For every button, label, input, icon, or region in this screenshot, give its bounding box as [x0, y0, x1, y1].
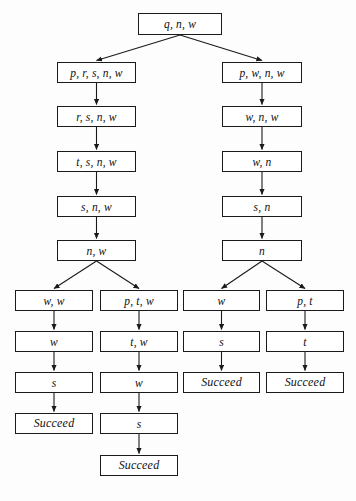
- tree-node-label: t, w: [130, 336, 147, 348]
- tree-node-label: s: [137, 418, 142, 430]
- tree-node-r4: s, n: [222, 196, 302, 217]
- tree-node-label: Succeed: [285, 375, 326, 390]
- tree-edge-r5-to-c4a: [262, 261, 305, 289]
- tree-node-root: q, n, w: [138, 13, 222, 35]
- tree-node-c4c: Succeed: [266, 372, 344, 393]
- tree-node-label: s, n: [254, 201, 271, 213]
- tree-node-c3a: w: [183, 290, 260, 311]
- tree-node-label: t: [303, 336, 306, 348]
- tree-node-r3: w, n: [222, 151, 302, 172]
- tree-edge-root-to-l1: [97, 35, 181, 61]
- tree-node-label: w: [218, 295, 226, 307]
- tree-edge-r5-to-c3a: [222, 261, 263, 289]
- tree-edge-l5-to-c1a: [54, 261, 97, 289]
- tree-node-c1c: s: [15, 372, 93, 393]
- tree-node-c1b: w: [15, 331, 93, 352]
- tree-node-c2a: p, t, w: [100, 290, 178, 311]
- tree-node-label: r, s, n, w: [76, 111, 116, 123]
- tree-node-label: w, n: [252, 156, 271, 168]
- tree-node-c2c: w: [100, 372, 178, 393]
- tree-node-label: s: [52, 377, 57, 389]
- tree-node-label: n: [259, 245, 265, 257]
- tree-node-label: s, n, w: [81, 201, 112, 213]
- tree-node-r2: w, n, w: [222, 106, 302, 127]
- tree-node-c2b: t, w: [100, 331, 178, 352]
- tree-node-label: w: [135, 377, 143, 389]
- tree-node-c4a: p, t: [266, 290, 344, 311]
- tree-node-label: w, n, w: [245, 111, 278, 123]
- tree-edge-l5-to-c2a: [97, 261, 140, 289]
- tree-node-c2e: Succeed: [100, 455, 178, 476]
- tree-node-c3b: s: [183, 331, 260, 352]
- tree-node-c1a: w, w: [15, 290, 93, 311]
- tree-node-label: Succeed: [201, 375, 242, 390]
- tree-node-label: q, n, w: [164, 18, 196, 30]
- tree-node-label: w, w: [43, 295, 64, 307]
- tree-node-l2: r, s, n, w: [57, 106, 136, 127]
- tree-node-c1d: Succeed: [15, 413, 93, 434]
- tree-node-c3c: Succeed: [183, 372, 260, 393]
- tree-node-label: p, t: [297, 295, 313, 307]
- diagram-canvas: q, n, wp, r, s, n, wr, s, n, wt, s, n, w…: [0, 0, 356, 501]
- tree-edge-root-to-r1: [180, 35, 262, 61]
- tree-node-l5: n, w: [57, 240, 136, 261]
- tree-node-r1: p, w, n, w: [222, 62, 302, 83]
- tree-node-label: t, s, n, w: [76, 156, 116, 168]
- tree-node-label: Succeed: [119, 458, 160, 473]
- tree-node-r5: n: [222, 240, 302, 261]
- tree-node-l4: s, n, w: [57, 196, 136, 217]
- tree-node-label: Succeed: [34, 416, 75, 431]
- tree-node-l1: p, r, s, n, w: [57, 62, 136, 83]
- tree-node-label: p, w, n, w: [239, 67, 284, 79]
- tree-node-label: n, w: [87, 245, 107, 257]
- tree-node-label: p, t, w: [124, 295, 154, 307]
- tree-node-c2d: s: [100, 413, 178, 434]
- tree-node-label: w: [50, 336, 58, 348]
- tree-node-l3: t, s, n, w: [57, 151, 136, 172]
- tree-node-c4b: t: [266, 331, 344, 352]
- tree-node-label: s: [219, 336, 224, 348]
- tree-node-label: p, r, s, n, w: [70, 67, 122, 79]
